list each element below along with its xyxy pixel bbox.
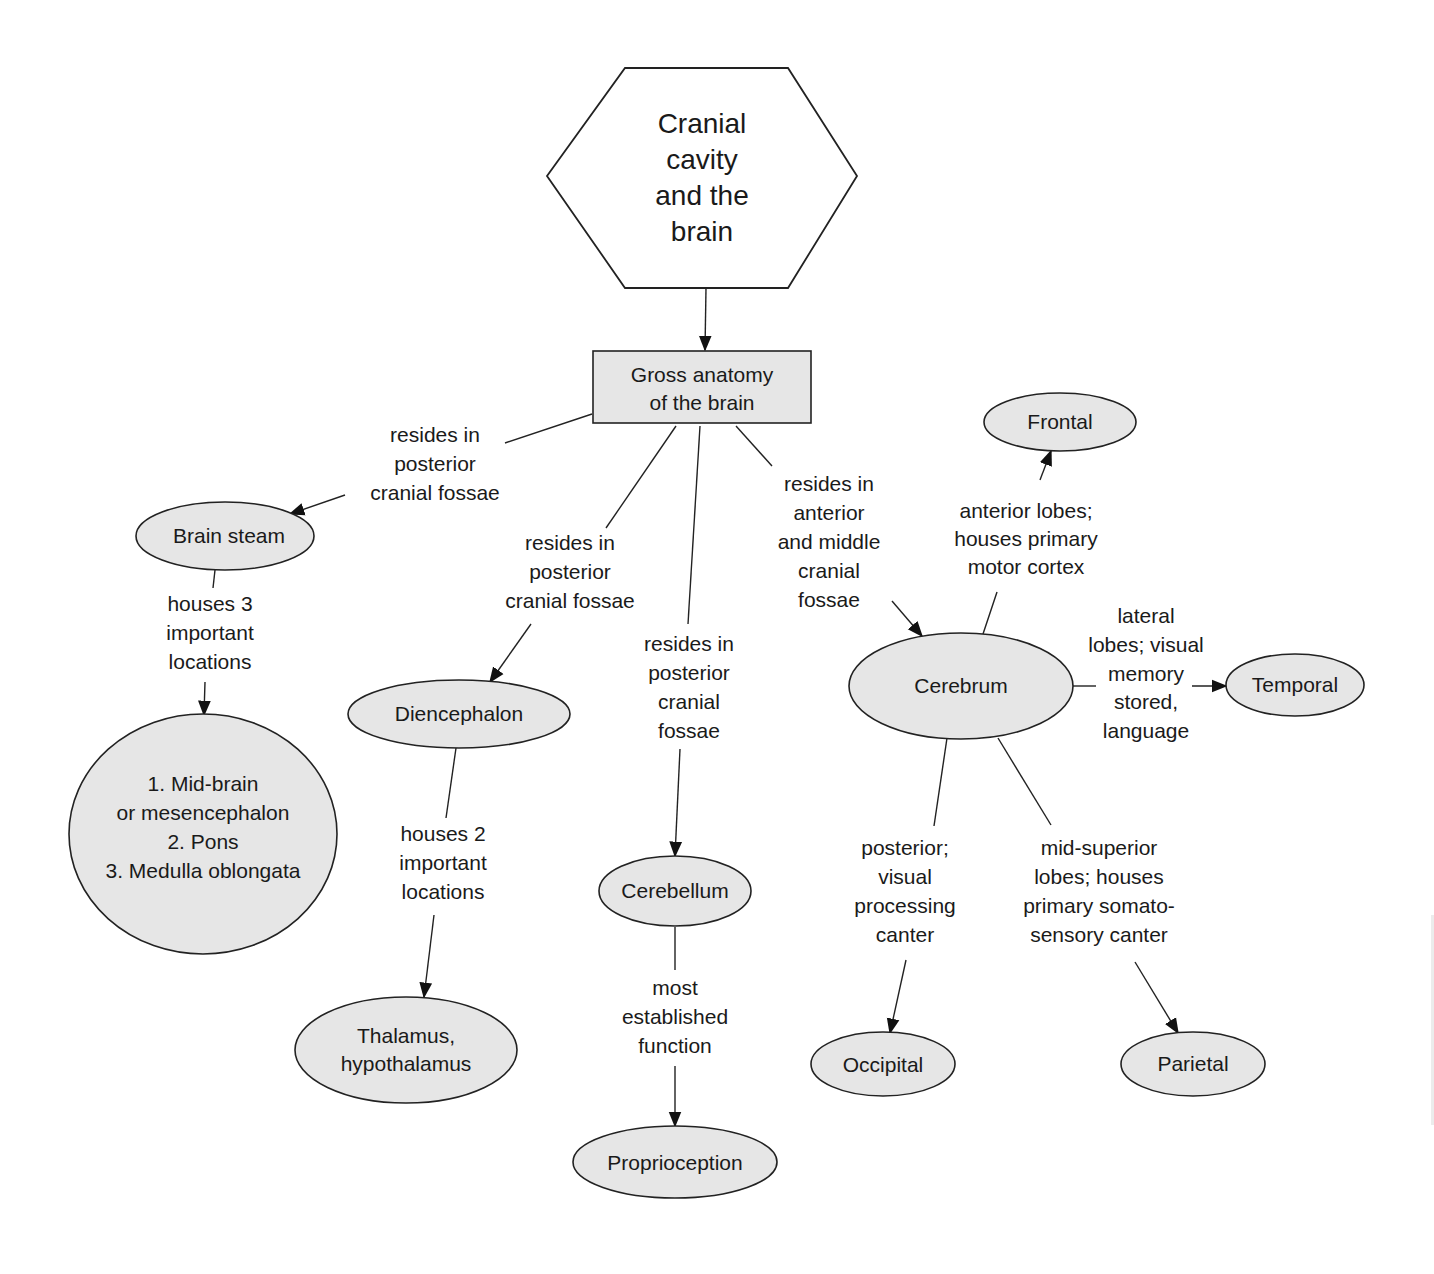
link-label-to-diencephalon: resides in posterior cranial fossae [505,531,635,612]
edge-cerebrum-to-occipital-b [890,960,906,1033]
thalamus-line-2: hypothalamus [341,1052,472,1075]
brain-stem-label: Brain steam [173,524,285,547]
concept-map: Cranial cavity and the brain Gross anato… [0,0,1434,1274]
link-text: most [652,976,698,999]
link-text: resides in [525,531,615,554]
link-text: memory [1108,662,1184,685]
gross-anatomy-node[interactable]: Gross anatomy of the brain [593,351,811,423]
ellipse-shape [295,997,517,1103]
link-label-to-temporal: lateral lobes; visual memory stored, lan… [1088,604,1204,742]
root-node[interactable]: Cranial cavity and the brain [547,68,857,288]
diencephalon-label: Diencephalon [395,702,523,725]
edge-gross-to-dien-a [606,426,676,528]
link-text: sensory canter [1030,923,1168,946]
root-line-1: Cranial [658,108,747,139]
gross-line-2: of the brain [649,391,754,414]
brain-stem-node[interactable]: Brain steam [136,502,314,570]
edge-gross-to-cerebellum-a [688,426,700,624]
frontal-node[interactable]: Frontal [984,393,1136,451]
link-text: lobes; houses [1034,865,1164,888]
edge-dien-to-label [446,748,456,818]
link-text: cranial [798,559,860,582]
edge-gross-to-dien-b [490,624,531,682]
cerebellum-label: Cerebellum [621,879,728,902]
gross-line-1: Gross anatomy [631,363,774,386]
link-text: lobes; visual [1088,633,1204,656]
link-text: posterior [648,661,730,684]
edge-gross-to-cerebellum-b [675,749,680,856]
link-label-to-brain-stem: resides in posterior cranial fossae [370,423,500,504]
hexagon-shape [547,68,857,288]
link-text: lateral [1117,604,1174,627]
edge-cerebrum-to-frontal-a [983,592,997,634]
edge-cerebrum-to-parietal-b [1135,962,1178,1033]
link-text: stored, [1114,690,1178,713]
link-label-to-cerebellum: resides in posterior cranial fossae [644,632,734,742]
thalamus-node[interactable]: Thalamus, hypothalamus [295,997,517,1103]
link-text: houses 2 [400,822,485,845]
edge-root-to-gross [705,288,706,350]
edge-gross-to-cerebrum-a [736,426,772,466]
link-label-to-occipital: posterior; visual processing canter [854,836,956,946]
link-text: resides in [390,423,480,446]
link-text: visual [878,865,932,888]
link-text: anterior lobes; [959,499,1092,522]
link-text: cranial fossae [370,481,500,504]
occipital-node[interactable]: Occipital [811,1032,955,1096]
edge-gross-to-brainstem-b [290,495,345,514]
link-label-brain-stem-houses: houses 3 important locations [166,592,254,673]
root-line-4: brain [671,216,733,247]
link-text: and middle [778,530,881,553]
link-label-diencephalon-houses: houses 2 important locations [399,822,487,903]
link-text: language [1103,719,1189,742]
brain-stem-part-3: 3. Medulla oblongata [106,859,301,882]
cerebellum-node[interactable]: Cerebellum [599,856,751,926]
diencephalon-node[interactable]: Diencephalon [348,680,570,748]
thalamus-line-1: Thalamus, [357,1024,455,1047]
link-text: anterior [793,501,864,524]
edge-gross-to-brainstem-a [505,414,592,443]
brain-stem-part-1: 1. Mid-brain [148,772,259,795]
occipital-label: Occipital [843,1053,924,1076]
cerebrum-label: Cerebrum [914,674,1007,697]
cerebrum-node[interactable]: Cerebrum [849,633,1073,739]
brain-stem-part-2: 2. Pons [167,830,238,853]
brain-stem-parts-node[interactable]: 1. Mid-brain or mesencephalon 2. Pons 3.… [69,714,337,954]
edge-cerebrum-to-frontal-b [1040,451,1051,480]
link-text: mid-superior [1041,836,1158,859]
link-text: primary somato- [1023,894,1175,917]
link-text: cranial fossae [505,589,635,612]
parietal-label: Parietal [1157,1052,1228,1075]
link-text: processing [854,894,956,917]
link-text: function [638,1034,712,1057]
temporal-node[interactable]: Temporal [1226,654,1364,716]
brain-stem-part-1b: or mesencephalon [117,801,290,824]
edge-label-to-thalamus [424,915,434,997]
link-text: resides in [784,472,874,495]
parietal-node[interactable]: Parietal [1121,1032,1265,1096]
edge-brainstem-to-label [213,570,215,588]
link-text: cranial [658,690,720,713]
edge-cerebrum-to-parietal-a [998,738,1051,825]
link-text: posterior [529,560,611,583]
link-text: important [399,851,487,874]
link-label-cerebellum-function: most established function [622,976,728,1057]
link-text: posterior [394,452,476,475]
edge-gross-to-cerebrum-b [892,601,922,636]
link-text: houses primary [954,527,1098,550]
link-text: locations [169,650,252,673]
link-label-to-cerebrum: resides in anterior and middle cranial f… [778,472,881,611]
proprioception-label: Proprioception [607,1151,742,1174]
root-line-2: cavity [666,144,738,175]
link-label-to-parietal: mid-superior lobes; houses primary somat… [1023,836,1175,946]
proprioception-node[interactable]: Proprioception [573,1126,777,1198]
link-text: motor cortex [968,555,1085,578]
link-text: fossae [658,719,720,742]
link-text: important [166,621,254,644]
frontal-label: Frontal [1027,410,1092,433]
link-text: houses 3 [167,592,252,615]
link-text: locations [402,880,485,903]
link-text: resides in [644,632,734,655]
link-label-to-frontal: anterior lobes; houses primary motor cor… [954,499,1098,578]
edge-cerebrum-to-occipital-a [934,738,947,826]
